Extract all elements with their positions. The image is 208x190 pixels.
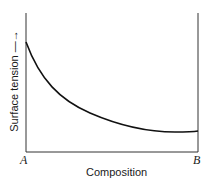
surface-tension-curve xyxy=(26,42,198,132)
point-b-label: B xyxy=(193,153,200,168)
chart-canvas xyxy=(0,0,208,190)
point-a-label: A xyxy=(20,153,27,168)
y-axis-label: Surface tension —→ xyxy=(8,30,20,132)
x-axis-label: Composition xyxy=(86,166,147,178)
